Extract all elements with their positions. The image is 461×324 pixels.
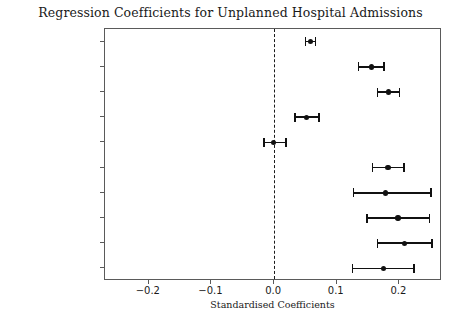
ci-cap-upper [383, 62, 385, 71]
ci-cap-lower [352, 264, 354, 273]
coefficient-point-marker [395, 215, 400, 220]
coefficient-point-marker [308, 39, 313, 44]
x-axis-tick-mark [336, 280, 337, 284]
ci-cap-lower [353, 188, 355, 197]
ci-cap-upper [403, 163, 405, 172]
coefficient-point-marker [369, 64, 374, 69]
ci-cap-lower [294, 113, 296, 122]
coefficient-point-marker [383, 190, 388, 195]
zero-reference-line [274, 29, 275, 279]
ci-cap-lower [372, 163, 374, 172]
x-axis-tick-mark [273, 280, 274, 284]
x-axis-label: Standardised Coefficients [104, 299, 441, 310]
ci-cap-upper [431, 239, 433, 248]
ci-cap-upper [429, 214, 431, 223]
ci-cap-lower [377, 239, 379, 248]
ci-cap-lower [263, 138, 265, 147]
ci-cap-upper [285, 138, 287, 147]
ci-cap-lower [366, 214, 368, 223]
ci-cap-lower [305, 37, 307, 46]
coefficient-point-marker [381, 266, 386, 271]
x-axis-tick-label: −0.1 [180, 285, 240, 296]
coefficient-point-marker [386, 89, 391, 94]
coefficient-point-marker [271, 140, 276, 145]
ci-cap-upper [318, 113, 320, 122]
x-axis-tick-label: 0.2 [368, 285, 428, 296]
coefficient-point-marker [402, 241, 407, 246]
x-axis-tick-label: −0.2 [118, 285, 178, 296]
x-axis-tick-label: 0.0 [243, 285, 303, 296]
forest-plot-figure: Regression Coefficients for Unplanned Ho… [0, 0, 461, 324]
coefficient-point-marker [304, 115, 309, 120]
x-axis-tick-mark [210, 280, 211, 284]
coefficient-point-marker [385, 165, 390, 170]
ci-cap-upper [399, 88, 401, 97]
x-axis-tick-mark [148, 280, 149, 284]
x-axis-tick-label: 0.1 [306, 285, 366, 296]
page-title: Regression Coefficients for Unplanned Ho… [0, 5, 461, 20]
ci-cap-upper [315, 37, 317, 46]
confidence-interval-bar [354, 192, 431, 194]
ci-cap-upper [413, 264, 415, 273]
ci-cap-upper [430, 188, 432, 197]
ci-cap-lower [358, 62, 360, 71]
ci-cap-lower [377, 88, 379, 97]
plot-area [104, 28, 441, 280]
x-axis-tick-mark [398, 280, 399, 284]
